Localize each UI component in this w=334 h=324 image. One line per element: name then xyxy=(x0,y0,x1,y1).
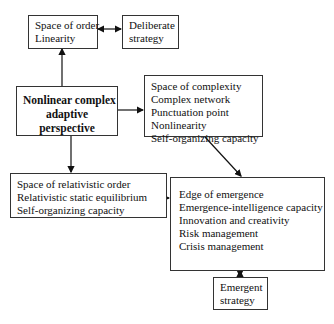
node-line: Emergent xyxy=(220,281,261,294)
node-emergent-strategy: Emergent strategy xyxy=(213,277,268,310)
node-nonlinear-perspective: Nonlinear complex adaptive perspective xyxy=(16,86,118,136)
node-line: Innovation and creativity xyxy=(179,214,316,227)
node-line: perspective xyxy=(23,121,111,135)
node-line: Space of relativistic order xyxy=(17,178,160,191)
node-line: Emergence-intelligence capacity xyxy=(179,201,316,214)
node-line: strategy xyxy=(220,294,261,307)
node-line: Self-organizing capacity xyxy=(17,204,160,217)
node-line: Self-organizing capacity xyxy=(151,132,256,145)
node-space-of-complexity: Space of complexity Complex network Punc… xyxy=(144,75,263,137)
node-edge-of-emergence: Edge of emergence Emergence-intelligence… xyxy=(170,177,325,271)
node-space-of-order: Space of order Linearity xyxy=(28,15,98,49)
node-line: Complex network xyxy=(151,93,256,106)
node-deliberate-strategy: Deliberate strategy xyxy=(122,15,179,49)
node-relativistic-order: Space of relativistic order Relativistic… xyxy=(10,173,167,218)
node-line: Space of complexity xyxy=(151,80,256,93)
node-line: Risk management xyxy=(179,227,316,240)
node-line: Linearity xyxy=(35,32,91,45)
node-line: Edge of emergence xyxy=(179,188,316,201)
node-line: Punctuation point xyxy=(151,106,256,119)
node-line: Relativistic static equilibrium xyxy=(17,191,160,204)
node-line: adaptive xyxy=(23,107,111,121)
node-line: Nonlinearity xyxy=(151,119,256,132)
node-line: Space of order xyxy=(35,19,91,32)
node-line: Deliberate xyxy=(129,19,172,32)
node-line: Crisis management xyxy=(179,240,316,253)
node-line: strategy xyxy=(129,32,172,45)
node-line: Nonlinear complex xyxy=(23,93,111,107)
